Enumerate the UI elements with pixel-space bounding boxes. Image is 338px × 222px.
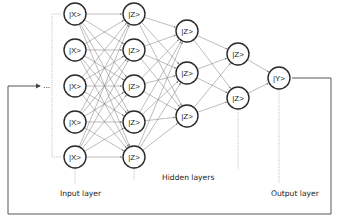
node-label: |Z>: [128, 46, 140, 55]
edge: [140, 41, 181, 112]
edge: [197, 36, 227, 50]
output-node: |Y>: [268, 67, 290, 89]
edge: [197, 102, 226, 112]
node-label: |X>: [69, 118, 81, 127]
hidden-layers-label: Hidden layers: [162, 173, 214, 182]
hidden3-node: |Z>: [227, 87, 249, 109]
input-bracket: [52, 14, 61, 157]
hidden3-node: |Z>: [227, 43, 249, 65]
node-label: |Z>: [181, 27, 193, 36]
node-label: |X>: [69, 153, 81, 162]
ellipsis: ...: [43, 81, 50, 90]
node-label: |Z>: [181, 69, 193, 78]
edge: [84, 20, 123, 44]
edge: [144, 17, 175, 27]
hidden1-node: |Z>: [123, 75, 145, 97]
edge: [144, 54, 176, 68]
node-label: |Z>: [128, 82, 140, 91]
hidden2-node: |Z>: [176, 105, 198, 127]
edge: [248, 83, 268, 93]
node-label: |Z>: [232, 94, 244, 103]
output-layer-label: Output layer: [271, 189, 320, 198]
input-node: |X>: [64, 3, 86, 25]
edge: [80, 25, 128, 113]
node-label: |X>: [69, 10, 81, 19]
edge: [144, 35, 175, 46]
hidden1-node: |Z>: [123, 3, 145, 25]
edge: [82, 23, 126, 77]
edges-group: [79, 14, 268, 157]
edge: [84, 20, 123, 44]
hidden2-node: |Z>: [176, 62, 198, 84]
input-node: |X>: [64, 39, 86, 61]
input-node: |X>: [64, 75, 86, 97]
edge: [84, 128, 123, 151]
input-node: |X>: [64, 111, 86, 133]
edge: [80, 60, 128, 147]
hidden2-node: |Z>: [176, 20, 198, 42]
node-label: |Z>: [181, 112, 193, 121]
edge: [197, 58, 226, 69]
edge: [84, 128, 123, 151]
edge: [141, 59, 180, 107]
node-label: |X>: [69, 46, 81, 55]
node-label: |Z>: [232, 50, 244, 59]
edge: [141, 22, 179, 64]
edge: [80, 61, 128, 148]
edge: [84, 56, 123, 80]
edge: [142, 81, 178, 114]
hidden1-node: |Z>: [123, 111, 145, 133]
neural-network-diagram: ... |X>|X>|X>|X>|X>|Z>|Z>|Z>|Z>|Z>|Z>|Z>…: [0, 0, 338, 222]
node-label: |Z>: [128, 10, 140, 19]
edge: [247, 60, 268, 72]
node-label: |Z>: [128, 153, 140, 162]
node-label: |Y>: [273, 74, 285, 83]
edge: [144, 91, 177, 110]
hidden1-node: |Z>: [123, 146, 145, 168]
edge: [143, 123, 178, 150]
input-node: |X>: [64, 146, 86, 168]
node-label: |Z>: [128, 118, 140, 127]
edge: [84, 92, 123, 116]
hidden1-node: |Z>: [123, 39, 145, 61]
node-label: |X>: [69, 82, 81, 91]
input-layer-label: Input layer: [60, 189, 102, 198]
edge: [194, 40, 231, 89]
edge: [194, 63, 230, 107]
